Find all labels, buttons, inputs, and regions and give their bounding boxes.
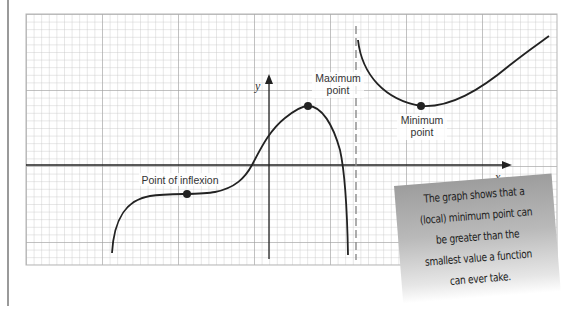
explanatory-note: The graph shows that a (local) minimum p… [394, 174, 561, 304]
inflexion-point-marker [183, 190, 191, 198]
y-axis-label: y [254, 79, 261, 93]
svg-text:point: point [327, 84, 350, 96]
svg-text:point: point [411, 126, 434, 138]
svg-text:Minimum: Minimum [401, 114, 444, 126]
svg-text:Point of inflexion: Point of inflexion [141, 174, 218, 186]
maximum-point-marker [304, 102, 312, 110]
inflexion-label: Point of inflexion [139, 173, 221, 186]
function-graph-figure: x y Maximum point Minimum point [0, 0, 576, 321]
minimum-point-marker [417, 102, 425, 110]
note-line: can ever take. [449, 266, 511, 292]
maximum-label: Maximum point [312, 72, 364, 98]
svg-text:Maximum: Maximum [315, 72, 361, 84]
minimum-label: Minimum point [397, 114, 447, 140]
